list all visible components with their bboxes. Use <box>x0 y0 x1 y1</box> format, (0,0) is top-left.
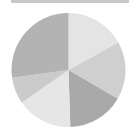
pie-slice-6 <box>11 13 68 78</box>
pie-chart <box>0 0 137 136</box>
